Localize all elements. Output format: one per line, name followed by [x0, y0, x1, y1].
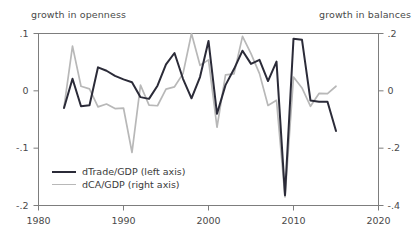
- x-tick-label: 1990: [104, 215, 144, 226]
- x-tick-label: 1980: [19, 215, 59, 226]
- legend-swatch-icon: [52, 171, 76, 173]
- legend-swatch-icon: [52, 184, 76, 185]
- left-tick-label: -.1: [3, 142, 29, 153]
- right-tick-label: -.4: [388, 200, 414, 211]
- chart-legend: dTrade/GDP (left axis)dCA/GDP (right axi…: [52, 165, 186, 191]
- legend-item[interactable]: dTrade/GDP (left axis): [52, 165, 186, 178]
- plot-area: [0, 0, 419, 241]
- legend-label: dCA/GDP (right axis): [82, 178, 180, 191]
- right-tick-label: .2: [388, 28, 414, 39]
- right-axis-title: growth in balances: [319, 9, 411, 20]
- x-tick-label: 2020: [359, 215, 399, 226]
- left-tick-label: .1: [3, 28, 29, 39]
- right-tick-label: -.2: [388, 142, 414, 153]
- chart-container: growth in openness growth in balances .1…: [0, 0, 419, 241]
- right-tick-label: 0: [388, 85, 414, 96]
- left-axis-title: growth in openness: [31, 9, 126, 20]
- legend-label: dTrade/GDP (left axis): [82, 165, 186, 178]
- x-tick-label: 2000: [189, 215, 229, 226]
- x-tick-label: 2010: [274, 215, 314, 226]
- left-tick-label: -.2: [3, 200, 29, 211]
- legend-item[interactable]: dCA/GDP (right axis): [52, 178, 186, 191]
- left-tick-label: 0: [3, 85, 29, 96]
